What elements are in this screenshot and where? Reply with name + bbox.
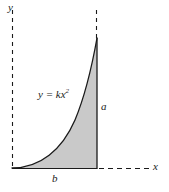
axis-label-x: x [153,161,158,172]
width-label-b: b [52,173,58,184]
curve-equation-exponent: 2 [66,87,70,95]
curve-equation-label: y = kx2 [38,88,69,100]
height-label-a: a [101,101,107,112]
parabola-area-plot [0,0,169,192]
shaded-area-region [12,38,97,168]
axis-label-y: y [8,2,13,13]
curve-equation-base: y = kx [38,88,66,100]
math-figure: y x y = kx2 a b [0,0,169,192]
